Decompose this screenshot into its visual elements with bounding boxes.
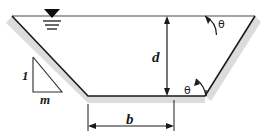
bottom-width-arrow-left [88,123,96,129]
slope-run-label: m [40,92,50,107]
channel-cross-section-diagram: 1 m d b θ θ [0,0,265,139]
water-level-triangle-icon [44,9,60,18]
angle-top-marker [205,16,217,35]
angle-bottom-marker [194,79,206,96]
angle-top-label: θ [218,18,225,31]
bottom-width-arrow-right [166,123,174,129]
angle-bottom-label: θ [184,84,191,97]
channel-bed-shadow [88,96,205,103]
right-bank-shadow [205,16,261,101]
bottom-width-label: b [126,111,134,127]
depth-arrow-top [164,16,170,24]
depth-label: d [152,49,160,65]
depth-arrow-bottom [164,88,170,96]
slope-rise-label: 1 [22,68,29,83]
water-level-symbol [43,9,61,29]
depth-dimension [164,16,170,96]
